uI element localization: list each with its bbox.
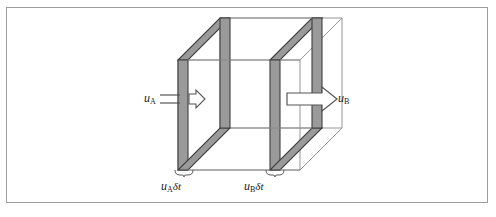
slab-b-back-face (312, 18, 322, 128)
outflow-velocity-subscript: B (344, 97, 349, 106)
inflow-thickness-label: uAδt (161, 177, 181, 194)
outflow-thickness-delta: δt (255, 180, 263, 192)
inflow-velocity-subscript: A (150, 97, 156, 106)
figure-container: uA uB uAδt uBδt (0, 0, 496, 217)
inflow-slab-A (178, 18, 230, 170)
outflow-thickness-brace (266, 170, 284, 177)
dimension-braces (175, 170, 284, 177)
outflow-thickness-label: uBδt (244, 177, 264, 194)
inflow-velocity-label: uA (144, 89, 156, 106)
outflow-velocity-label: uB (338, 89, 349, 106)
slab-a-back-face (220, 18, 230, 128)
slab-a-front-face (178, 60, 188, 170)
inflow-thickness-delta: δt (173, 180, 181, 192)
inflow-arrow-head (189, 90, 205, 108)
slab-b-front-face (270, 60, 280, 170)
inflow-thickness-brace (175, 170, 193, 177)
